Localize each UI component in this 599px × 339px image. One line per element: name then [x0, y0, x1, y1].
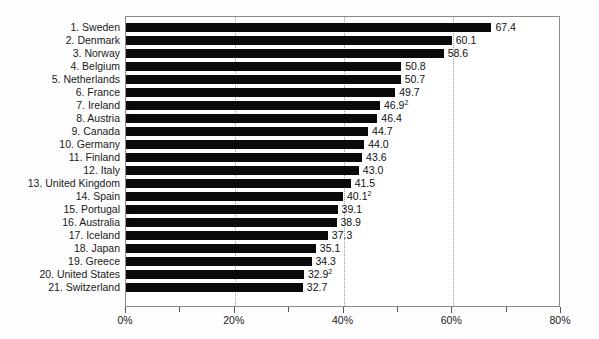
x-tick-major: [234, 307, 235, 313]
bar-row: 2. Denmark60.1: [0, 34, 599, 47]
category-label: 8. Austria: [76, 112, 120, 125]
bar-value-label: 44.0: [368, 138, 388, 151]
bar-value-label: 35.1: [320, 242, 340, 255]
bar-row: 3. Norway58.6: [0, 47, 599, 60]
bar: [126, 231, 328, 240]
x-tick-label: 80%: [549, 314, 570, 326]
footnote-marker: 2: [404, 99, 408, 106]
bar: [126, 101, 380, 110]
bar-value-label: 46.92: [384, 99, 408, 112]
bar-row: 12. Italy43.0: [0, 164, 599, 177]
bar-chart: 1. Sweden67.42. Denmark60.13. Norway58.6…: [0, 0, 599, 339]
bar: [126, 23, 491, 32]
x-tick-label: 60%: [441, 314, 462, 326]
bar-row: 10. Germany44.0: [0, 138, 599, 151]
category-label: 15. Portugal: [63, 203, 120, 216]
bar-row: 9. Canada44.7: [0, 125, 599, 138]
bar: [126, 218, 337, 227]
bar: [126, 49, 444, 58]
category-label: 2. Denmark: [66, 34, 120, 47]
bar-value-label: 58.6: [448, 47, 468, 60]
bar: [126, 205, 338, 214]
category-label: 19. Greece: [68, 255, 120, 268]
bar-value-label: 50.7: [405, 73, 425, 86]
category-label: 11. Finland: [69, 151, 120, 164]
bar-value-label: 37.3: [332, 229, 352, 242]
category-label: 21. Switzerland: [48, 281, 120, 294]
bar-row: 13. United Kingdom41.5: [0, 177, 599, 190]
category-label: 5. Netherlands: [52, 73, 120, 86]
category-label: 9. Canada: [72, 125, 120, 138]
bar-value-label: 32.7: [307, 281, 327, 294]
category-label: 3. Norway: [73, 47, 120, 60]
bar-value-label: 44.7: [372, 125, 392, 138]
bar: [126, 283, 303, 292]
bar-row: 16. Australia38.9: [0, 216, 599, 229]
x-tick-major: [125, 307, 126, 313]
x-tick-minor: [506, 307, 507, 312]
bar-row: 11. Finland43.6: [0, 151, 599, 164]
category-label: 14. Spain: [76, 190, 120, 203]
bar-row: 6. France49.7: [0, 86, 599, 99]
bar-value-label: 39.1: [342, 203, 362, 216]
category-label: 10. Germany: [59, 138, 120, 151]
bar-row: 15. Portugal39.1: [0, 203, 599, 216]
bar-value-label: 41.5: [355, 177, 375, 190]
x-tick-major: [343, 307, 344, 313]
bar-value-label: 34.3: [316, 255, 336, 268]
bar: [126, 140, 364, 149]
bar-row: 8. Austria46.4: [0, 112, 599, 125]
bar: [126, 75, 401, 84]
x-tick-major: [560, 307, 561, 313]
bar-value-label: 43.6: [366, 151, 386, 164]
category-label: 4. Belgium: [70, 60, 120, 73]
bar-value-label: 49.7: [399, 86, 419, 99]
bar-value-label: 43.0: [363, 164, 383, 177]
bar-row: 17. Iceland37.3: [0, 229, 599, 242]
x-tick-label: 20%: [223, 314, 244, 326]
bar: [126, 166, 359, 175]
category-label: 13. United Kingdom: [28, 177, 120, 190]
bar: [126, 257, 312, 266]
category-label: 16. Australia: [62, 216, 120, 229]
bar: [126, 114, 377, 123]
bar: [126, 179, 351, 188]
category-label: 1. Sweden: [70, 21, 120, 34]
bar: [126, 36, 452, 45]
category-label: 20. United States: [39, 268, 120, 281]
x-tick-label: 40%: [332, 314, 353, 326]
bar: [126, 192, 343, 201]
x-tick-minor: [179, 307, 180, 312]
x-tick-major: [451, 307, 452, 313]
bar-row: 4. Belgium50.8: [0, 60, 599, 73]
category-label: 17. Iceland: [69, 229, 120, 242]
bar-value-label: 60.1: [456, 34, 476, 47]
bar: [126, 88, 395, 97]
x-tick-minor: [397, 307, 398, 312]
bar: [126, 62, 401, 71]
footnote-marker: 2: [328, 268, 332, 275]
category-label: 12. Italy: [83, 164, 120, 177]
bar-value-label: 50.8: [405, 60, 425, 73]
bar-value-label: 46.4: [381, 112, 401, 125]
bar-value-label: 32.92: [308, 268, 332, 281]
bar-row: 1. Sweden67.4: [0, 21, 599, 34]
bar: [126, 153, 362, 162]
bar-row: 20. United States32.92: [0, 268, 599, 281]
bar-value-label: 40.12: [347, 190, 371, 203]
bar: [126, 127, 368, 136]
bar-value-label: 38.9: [341, 216, 361, 229]
x-tick-minor: [288, 307, 289, 312]
x-tick-label: 0%: [117, 314, 132, 326]
bar-value-label: 67.4: [495, 21, 515, 34]
category-label: 7. Ireland: [76, 99, 120, 112]
bar-row: 14. Spain40.12: [0, 190, 599, 203]
bar: [126, 270, 304, 279]
footnote-marker: 2: [367, 190, 371, 197]
bar-row: 19. Greece34.3: [0, 255, 599, 268]
bar-row: 18. Japan35.1: [0, 242, 599, 255]
bar-row: 7. Ireland46.92: [0, 99, 599, 112]
bar: [126, 244, 316, 253]
bar-row: 5. Netherlands50.7: [0, 73, 599, 86]
bar-rows: 1. Sweden67.42. Denmark60.13. Norway58.6…: [0, 16, 599, 307]
